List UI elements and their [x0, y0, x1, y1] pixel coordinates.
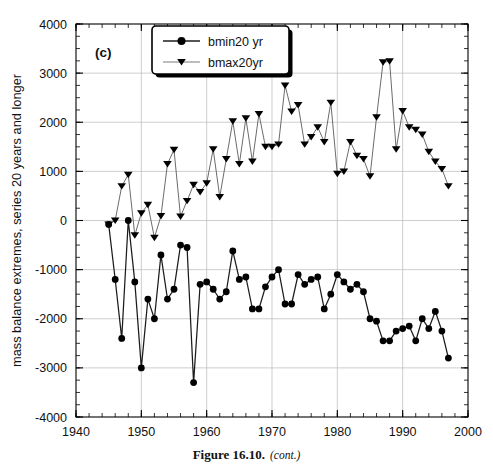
data-point-marker	[340, 279, 347, 286]
data-point-marker	[425, 149, 434, 155]
data-point-marker	[223, 288, 230, 295]
data-point-marker	[131, 232, 140, 238]
x-tick-label: 1950	[127, 425, 155, 439]
data-point-marker	[287, 108, 296, 114]
x-tick-label: 1990	[389, 425, 417, 439]
chart-legend: bmin20 yrbmax20yr	[152, 26, 293, 78]
data-point-marker	[189, 182, 198, 188]
data-point-marker	[210, 286, 217, 293]
caption-cont: (cont.)	[270, 449, 300, 461]
data-point-marker	[190, 379, 197, 386]
legend-marker-circle	[178, 37, 186, 45]
data-point-marker	[249, 306, 256, 313]
y-tick-label: -2000	[35, 312, 67, 326]
data-point-marker	[288, 301, 295, 308]
data-point-marker	[124, 172, 133, 178]
data-point-marker	[144, 296, 151, 303]
data-point-marker	[445, 355, 452, 362]
data-point-marker	[367, 315, 374, 322]
data-point-marker	[425, 325, 432, 332]
data-point-marker	[216, 296, 223, 303]
data-point-marker	[157, 213, 166, 219]
caption-number: Figure 16.10.	[193, 447, 265, 462]
data-point-marker	[308, 276, 315, 283]
data-point-marker	[419, 315, 426, 322]
data-point-marker	[372, 114, 381, 120]
data-point-marker	[373, 318, 380, 325]
y-tick-label: -3000	[35, 361, 67, 375]
data-point-marker	[144, 202, 153, 208]
data-point-marker	[176, 214, 185, 220]
data-point-marker	[183, 198, 192, 204]
data-point-marker	[202, 180, 211, 186]
data-point-marker	[164, 296, 171, 303]
data-point-marker	[242, 115, 251, 121]
data-point-marker	[333, 171, 342, 177]
figure-caption: Figure 16.10.(cont.)	[0, 447, 493, 463]
data-point-marker	[412, 337, 419, 344]
data-point-marker	[203, 279, 210, 286]
data-point-marker	[235, 161, 244, 167]
x-tick-label: 1940	[62, 425, 90, 439]
tick-labels-layer: 1940195019601970198019902000-4000-3000-2…	[35, 18, 482, 440]
y-tick-label: -1000	[35, 263, 67, 277]
data-point-marker	[151, 315, 158, 322]
y-tick-label: -4000	[35, 411, 67, 425]
data-point-marker	[366, 173, 375, 179]
x-tick-label: 2000	[454, 425, 482, 439]
data-point-marker	[209, 146, 218, 152]
grid-layer	[76, 24, 468, 417]
data-point-marker	[379, 59, 388, 65]
data-point-marker	[406, 323, 413, 330]
series-line-bmin20-yr	[109, 221, 449, 383]
data-point-marker	[282, 301, 289, 308]
data-point-marker	[163, 161, 172, 167]
figure-panel-c: 1940195019601970198019902000-4000-3000-2…	[0, 0, 493, 474]
panel-label: (c)	[95, 45, 112, 60]
data-point-marker	[314, 274, 321, 281]
legend-label: bmax20yr	[208, 56, 263, 70]
line-chart: 1940195019601970198019902000-4000-3000-2…	[0, 0, 493, 474]
data-point-marker	[131, 279, 138, 286]
data-point-marker	[327, 291, 334, 298]
data-point-marker	[170, 147, 179, 153]
data-point-marker	[300, 141, 309, 147]
data-point-marker	[262, 283, 269, 290]
data-point-marker	[229, 248, 236, 255]
data-point-marker	[438, 328, 445, 335]
data-point-marker	[215, 194, 224, 200]
data-point-marker	[275, 266, 282, 273]
data-point-marker	[196, 189, 205, 195]
data-point-marker	[184, 244, 191, 251]
data-point-marker	[236, 276, 243, 283]
data-point-marker	[177, 242, 184, 249]
y-tick-label: 3000	[39, 67, 67, 81]
data-point-marker	[313, 124, 322, 130]
data-point-marker	[360, 288, 367, 295]
data-point-marker	[118, 335, 125, 342]
x-tick-label: 1960	[193, 425, 221, 439]
y-tick-label: 2000	[39, 116, 67, 130]
data-point-marker	[150, 235, 159, 241]
data-point-marker	[222, 156, 231, 162]
data-point-marker	[269, 274, 276, 281]
data-point-marker	[399, 325, 406, 332]
data-point-marker	[393, 328, 400, 335]
data-point-marker	[432, 308, 439, 315]
y-tick-label: 0	[60, 214, 67, 228]
panel-label-layer: (c)	[95, 45, 112, 60]
data-point-marker	[354, 281, 361, 288]
data-point-marker	[444, 183, 453, 189]
data-point-marker	[334, 271, 341, 278]
data-point-marker	[125, 217, 132, 224]
data-point-marker	[346, 139, 355, 145]
y-axis-label-layer: mass balance extremes, series 20 years a…	[9, 73, 24, 367]
data-point-marker	[138, 364, 145, 371]
y-axis-label: mass balance extremes, series 20 years a…	[9, 73, 24, 367]
data-point-marker	[380, 337, 387, 344]
data-point-marker	[398, 108, 407, 114]
data-point-marker	[320, 139, 329, 145]
data-point-marker	[321, 306, 328, 313]
data-point-marker	[327, 100, 336, 106]
data-point-marker	[307, 134, 316, 140]
